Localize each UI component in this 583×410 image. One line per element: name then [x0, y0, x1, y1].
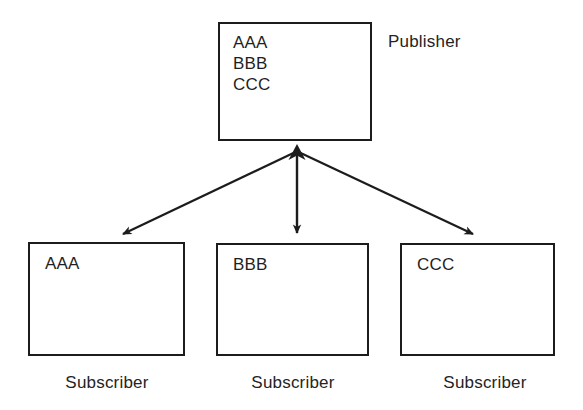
publisher-topic-bbb: BBB	[233, 53, 270, 74]
subscriber-caption-3: Subscriber	[443, 372, 526, 393]
publisher-topic-aaa: AAA	[233, 32, 270, 53]
subscriber-3-topic: CCC	[417, 254, 454, 275]
subscriber-box-2[interactable]: BBB	[216, 243, 369, 356]
diagram-canvas: AAA BBB CCC Publisher	[0, 0, 583, 410]
publisher-topic-ccc: CCC	[233, 74, 270, 95]
subscriber-1-topic: AAA	[45, 253, 80, 274]
arrowhead-up-to-publisher	[289, 144, 306, 160]
subscriber-2-topic: BBB	[233, 254, 268, 275]
arrow-publisher-to-subscriber-3	[299, 152, 474, 234]
subscriber-caption-2: Subscriber	[251, 372, 334, 393]
subscriber-box-3[interactable]: CCC	[400, 243, 555, 356]
subscriber-caption-1: Subscriber	[65, 372, 148, 393]
publisher-topic-list: AAA BBB CCC	[233, 32, 270, 95]
arrow-publisher-to-subscriber-1	[123, 152, 296, 234]
publisher-caption: Publisher	[388, 31, 461, 52]
publisher-box[interactable]: AAA BBB CCC	[218, 22, 372, 141]
subscriber-box-1[interactable]: AAA	[28, 242, 185, 356]
